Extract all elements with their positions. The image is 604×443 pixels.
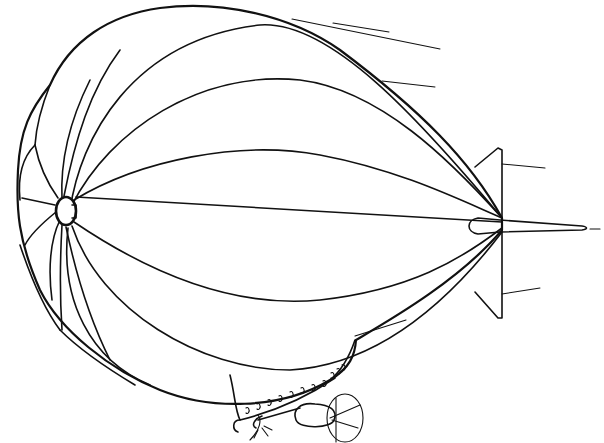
envelope-gores bbox=[22, 25, 502, 385]
speed-lines bbox=[292, 19, 545, 336]
nose-scallops bbox=[19, 85, 135, 385]
airship-illustration: Airship (blimp) line drawing bbox=[0, 0, 604, 443]
airship-drawing bbox=[0, 0, 604, 443]
tail-cone bbox=[469, 218, 600, 234]
nose-cap bbox=[56, 197, 76, 225]
engine-pods bbox=[254, 404, 336, 428]
gondola-windows bbox=[246, 365, 345, 414]
envelope bbox=[17, 6, 502, 404]
